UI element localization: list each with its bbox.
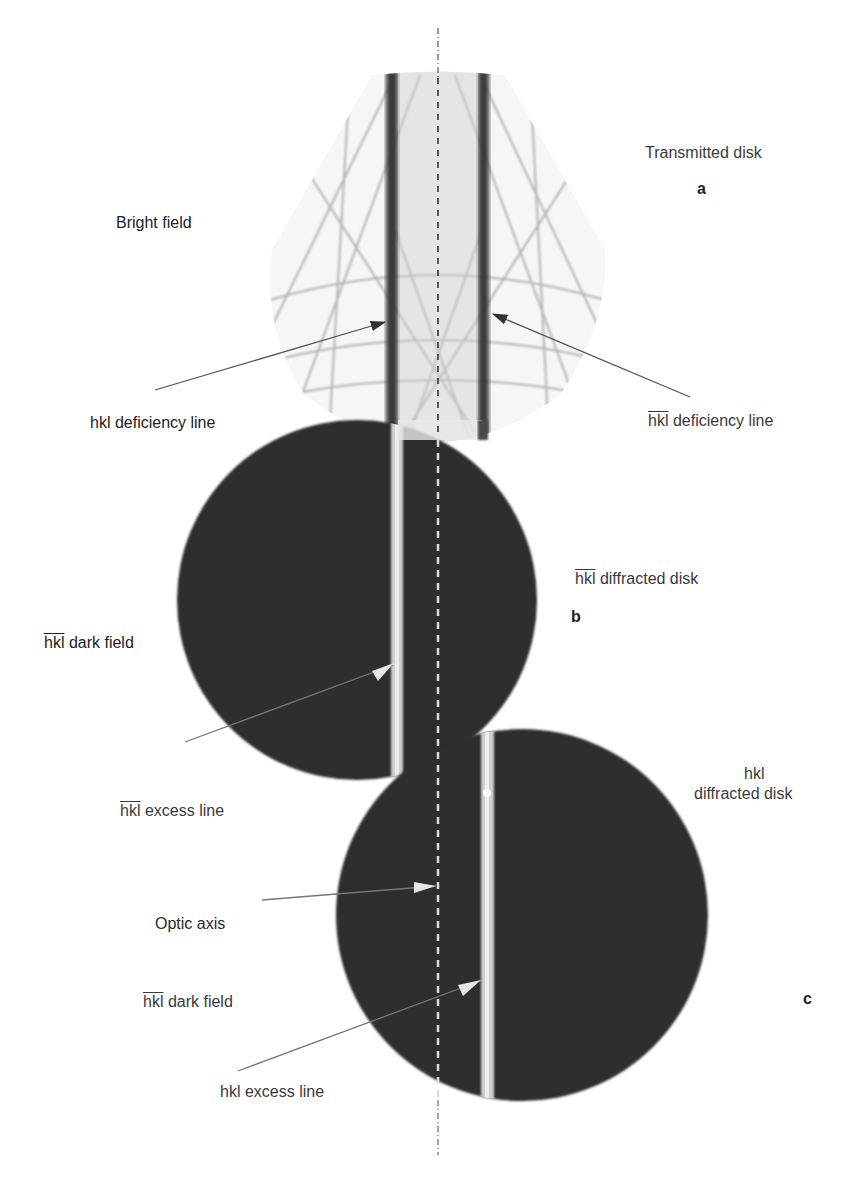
hkl-excess-line-label: hkl excess line — [220, 1083, 324, 1101]
panel-letter-c: c — [803, 990, 812, 1008]
optic-axis-label: Optic axis — [155, 915, 225, 933]
hkl-bar-index: hkl — [44, 634, 64, 651]
hkl-bar-index: hkl — [575, 570, 595, 587]
dark-field-text: dark field — [64, 634, 133, 651]
panel-a-bright-field — [260, 60, 620, 450]
bright-field-label: Bright field — [116, 214, 192, 232]
dark-field-text: dark field — [163, 993, 232, 1010]
hkl-diffracted-disk-label-line2: diffracted disk — [694, 785, 792, 803]
diffracted-disk-text: diffracted disk — [595, 570, 698, 587]
panel-letter-b: b — [571, 608, 581, 626]
deficiency-line-text: deficiency line — [110, 414, 215, 431]
hkl-bar-dark-field-label-b: hkl dark field — [44, 634, 134, 652]
hkl-index: hkl — [90, 414, 110, 431]
diffraction-diagram — [0, 0, 861, 1189]
hkl-bar-index: hkl — [648, 412, 668, 429]
hkl-diffracted-disk-label-line1: hkl — [744, 765, 764, 783]
hkl-deficiency-line-label: hkl deficiency line — [90, 414, 215, 432]
excess-line-text: excess line — [140, 802, 224, 819]
transmitted-disk-label: Transmitted disk — [645, 144, 762, 162]
hkl-bar-diffracted-disk-label: hkl diffracted disk — [575, 570, 698, 588]
hkl-bar-index: hkl — [143, 993, 163, 1010]
deficiency-line-text: deficiency line — [668, 412, 773, 429]
hkl-bar-excess-line-label: hkl excess line — [120, 802, 224, 820]
hkl-bar-deficiency-line-label: hkl deficiency line — [648, 412, 773, 430]
hkl-bar-index: hkl — [120, 802, 140, 819]
hkl-bar-dark-field-label-c: hkl dark field — [143, 993, 233, 1011]
panel-c-disk — [336, 725, 708, 1105]
cbed-figure: Transmitted disk a Bright field hkl defi… — [0, 0, 861, 1189]
panel-letter-a: a — [697, 180, 706, 198]
